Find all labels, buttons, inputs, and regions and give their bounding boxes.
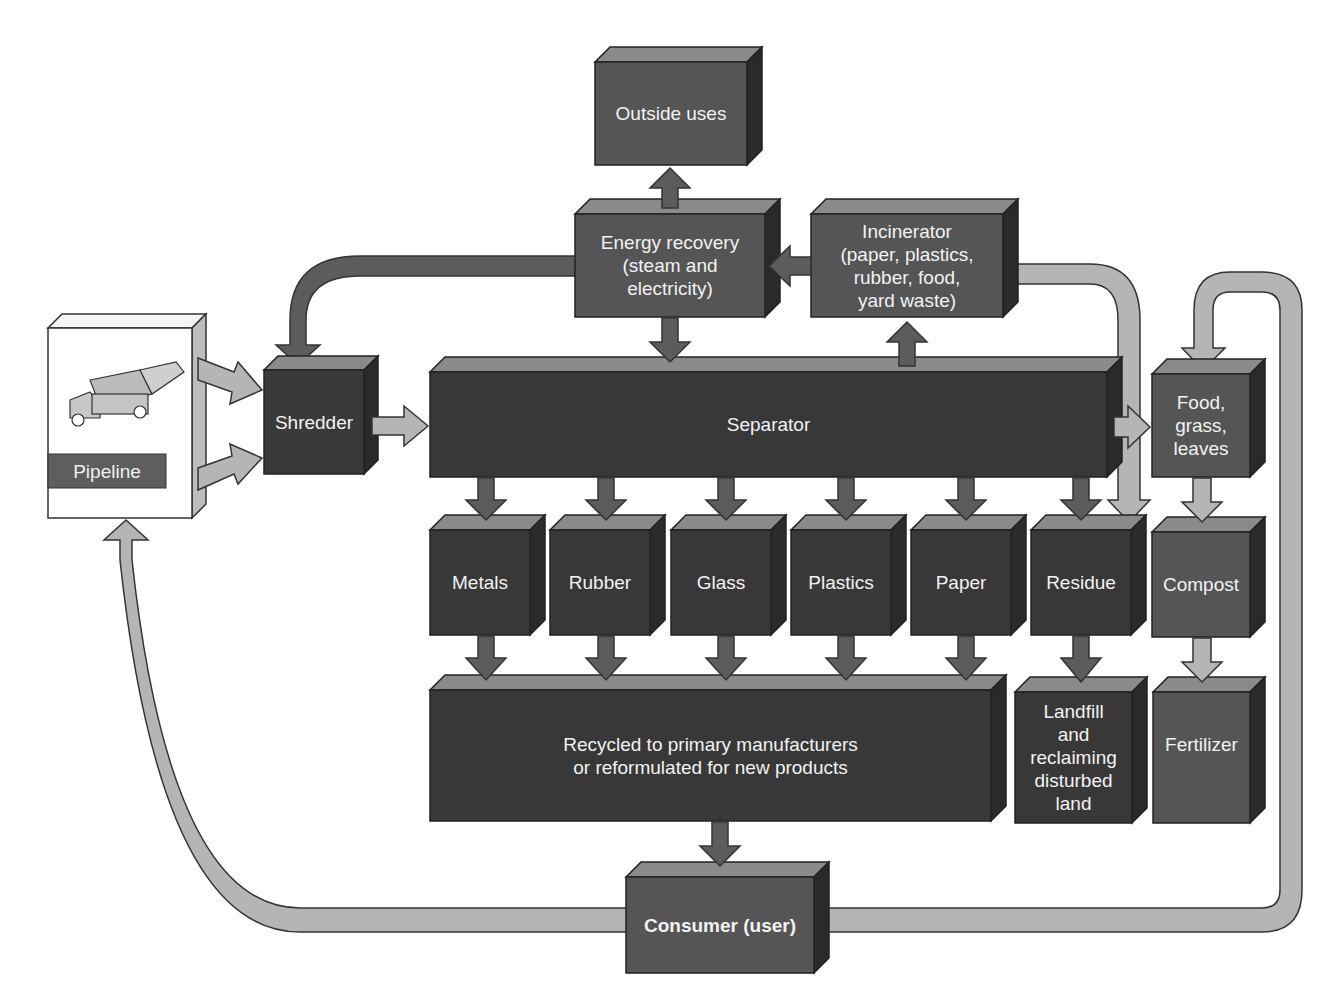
energy-recovery-box — [575, 199, 780, 317]
glass-box — [671, 515, 786, 635]
arrow-separator-to-residue — [1061, 478, 1101, 520]
paper-box — [911, 515, 1026, 635]
plastics-box — [791, 515, 906, 635]
arrow-separator-to-paper — [946, 478, 986, 520]
recycled-box — [430, 675, 1006, 821]
arrow-food-to-compost — [1182, 478, 1222, 522]
shredder-box — [264, 356, 378, 474]
arrow-rubber-to-recycled — [586, 636, 626, 680]
arrow-glass-to-recycled — [706, 636, 746, 680]
compost-box — [1152, 517, 1265, 637]
arrow-recycled-to-consumer — [700, 822, 740, 866]
arrow-shredder-to-separator — [372, 406, 428, 446]
arrow-pipeline-to-shredder-top — [198, 358, 262, 404]
arrow-separator-to-rubber — [586, 478, 626, 520]
arrow-separator-to-glass — [706, 478, 746, 520]
arrow-energy-to-separator — [650, 318, 690, 362]
consumer-box — [626, 862, 829, 973]
waste-management-flow-diagram — [0, 0, 1343, 1006]
arrow-residue-to-landfill — [1061, 636, 1101, 682]
pipeline-box — [48, 314, 206, 518]
outside-uses-box — [595, 47, 762, 165]
separator-box — [430, 357, 1122, 477]
arrow-pipeline-to-shredder-bottom — [198, 444, 262, 490]
fertilizer-box — [1153, 677, 1265, 823]
residue-box — [1031, 515, 1146, 635]
landfill-box — [1015, 677, 1147, 823]
arrow-metals-to-recycled — [466, 636, 506, 680]
food-grass-leaves-box — [1152, 359, 1265, 477]
incinerator-box — [811, 199, 1018, 317]
rubber-box — [550, 515, 665, 635]
arrow-compost-to-fertilizer — [1182, 638, 1222, 682]
arrow-plastics-to-recycled — [826, 636, 866, 680]
metals-box — [430, 515, 545, 635]
arrow-separator-to-metals — [466, 478, 506, 520]
arrow-energy-to-shredder — [276, 256, 578, 365]
arrow-separator-to-plastics — [826, 478, 866, 520]
arrow-paper-to-recycled — [946, 636, 986, 680]
